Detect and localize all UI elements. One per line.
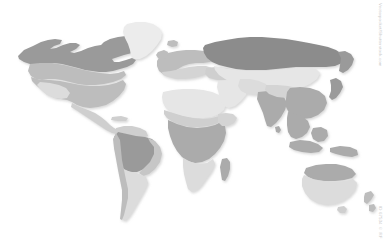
world-map-graphic	[0, 0, 383, 242]
credit-watermark-bottom: ID 67534 © RF	[378, 206, 382, 239]
world-map-figure: Vectorpocket/Shutterstock.com ID 67534 ©…	[0, 0, 383, 242]
credit-watermark-top: Vectorpocket/Shutterstock.com	[378, 3, 382, 67]
